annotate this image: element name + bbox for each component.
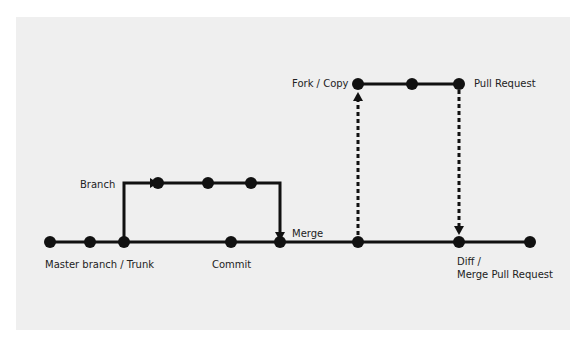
trunk-node xyxy=(225,236,237,248)
fork-label: Fork / Copy xyxy=(292,78,349,90)
trunk-label: Master branch / Trunk xyxy=(45,259,154,271)
branch-line xyxy=(124,183,150,242)
branch-commits-line xyxy=(158,183,280,234)
merge-label: Merge xyxy=(292,228,323,240)
fork-node xyxy=(453,78,465,90)
branch-node xyxy=(245,177,257,189)
trunk-node xyxy=(453,236,465,248)
pull-request-arrow-icon xyxy=(454,226,464,235)
diff-label-line2: Merge Pull Request xyxy=(457,269,553,281)
trunk-node xyxy=(352,236,364,248)
pull-request-label: Pull Request xyxy=(474,78,536,90)
diff-label-line1: Diff / xyxy=(457,256,481,268)
trunk-node xyxy=(44,236,56,248)
branch-label: Branch xyxy=(80,179,115,191)
fork-node xyxy=(352,78,364,90)
branch-node xyxy=(152,177,164,189)
branch-node xyxy=(202,177,214,189)
trunk-node xyxy=(524,236,536,248)
fork-node xyxy=(406,78,418,90)
commit-label: Commit xyxy=(212,259,251,271)
trunk-node xyxy=(274,236,286,248)
git-workflow-diagram xyxy=(0,0,584,342)
trunk-node xyxy=(118,236,130,248)
fork-arrow-icon xyxy=(353,92,363,101)
trunk-node xyxy=(84,236,96,248)
